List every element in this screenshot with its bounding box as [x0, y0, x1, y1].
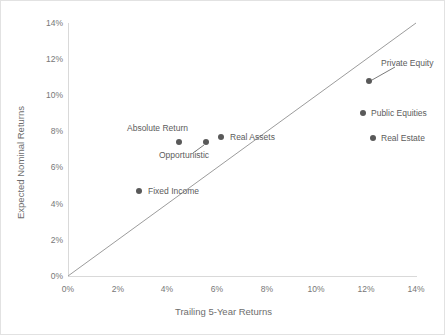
y-axis-line: [68, 23, 69, 277]
x-tick-label: 0%: [48, 284, 88, 294]
y-tick-label: 8%: [23, 126, 63, 136]
data-label-real-estate: Real Estate: [381, 133, 425, 143]
scatter-chart: 14% 12% 10% 8% 6% 4% 2% 0% 0% 2% 4% 6% 8…: [0, 0, 445, 335]
data-point-fixed-income[interactable]: [136, 188, 142, 194]
data-label-real-assets: Real Assets: [230, 132, 275, 142]
y-tick-label: 10%: [23, 90, 63, 100]
x-tick-label: 12%: [346, 284, 386, 294]
y-tick-label: 2%: [23, 235, 63, 245]
private-equity-leader-line: [372, 67, 395, 80]
x-tick-label: 14%: [396, 284, 436, 294]
data-point-opportunistic[interactable]: [203, 139, 209, 145]
y-tick-label: 4%: [23, 199, 63, 209]
y-tick-label: 6%: [23, 162, 63, 172]
data-point-private-equity[interactable]: [366, 78, 372, 84]
x-tick-label: 6%: [197, 284, 237, 294]
data-label-private-equity: Private Equity: [381, 58, 433, 68]
x-axis-line: [68, 276, 417, 277]
y-tick-label: 0%: [23, 271, 63, 281]
y-equals-x-diagonal-line: [68, 23, 416, 276]
y-tick-label: 14%: [23, 18, 63, 28]
x-tick-label: 4%: [147, 284, 187, 294]
x-axis-title: Trailing 5-Year Returns: [1, 306, 445, 317]
data-point-real-estate[interactable]: [370, 135, 376, 141]
data-label-fixed-income: Fixed Income: [148, 186, 199, 196]
data-label-opportunistic: Opportunistic: [159, 150, 209, 160]
x-tick-label: 8%: [247, 284, 287, 294]
data-label-public-equities: Public Equities: [371, 108, 427, 118]
x-tick-label: 10%: [296, 284, 336, 294]
y-tick-label: 12%: [23, 54, 63, 64]
data-point-real-assets[interactable]: [218, 134, 224, 140]
data-label-absolute-return: Absolute Return: [127, 123, 188, 133]
data-point-public-equities[interactable]: [360, 110, 366, 116]
y-axis-title: Expected Nominal Returns: [15, 106, 26, 219]
data-point-absolute-return[interactable]: [176, 139, 182, 145]
x-tick-label: 2%: [98, 284, 138, 294]
